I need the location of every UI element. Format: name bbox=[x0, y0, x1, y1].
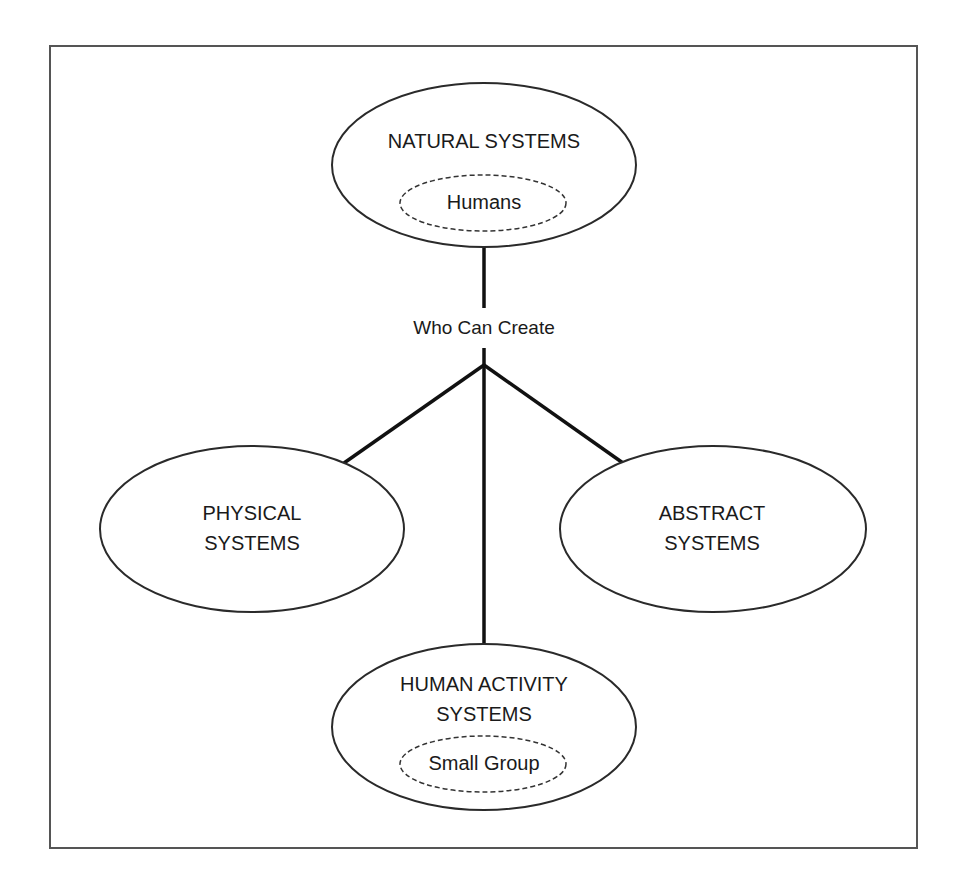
human-activity-systems-ellipse bbox=[332, 644, 636, 810]
humans-label: Humans bbox=[447, 191, 521, 213]
node-human-activity-systems: HUMAN ACTIVITY SYSTEMS Small Group bbox=[332, 644, 636, 810]
physical-systems-label-line2: SYSTEMS bbox=[204, 532, 300, 554]
relation-label: Who Can Create bbox=[413, 317, 555, 338]
abstract-systems-label-line2: SYSTEMS bbox=[664, 532, 760, 554]
abstract-systems-label-line1: ABSTRACT bbox=[659, 502, 766, 524]
abstract-systems-ellipse bbox=[560, 446, 866, 612]
human-activity-label-line1: HUMAN ACTIVITY bbox=[400, 673, 568, 695]
node-natural-systems: NATURAL SYSTEMS Humans bbox=[332, 83, 636, 247]
physical-systems-ellipse bbox=[100, 446, 404, 612]
physical-systems-label-line1: PHYSICAL bbox=[203, 502, 302, 524]
small-group-label: Small Group bbox=[428, 752, 539, 774]
human-activity-label-line2: SYSTEMS bbox=[436, 703, 532, 725]
node-abstract-systems: ABSTRACT SYSTEMS bbox=[560, 446, 866, 612]
systems-diagram: Who Can Create NATURAL SYSTEMS Humans PH… bbox=[0, 0, 961, 885]
edges bbox=[344, 247, 623, 644]
natural-systems-label: NATURAL SYSTEMS bbox=[388, 130, 580, 152]
node-physical-systems: PHYSICAL SYSTEMS bbox=[100, 446, 404, 612]
natural-systems-ellipse bbox=[332, 83, 636, 247]
edge-to-physical bbox=[344, 365, 484, 463]
edge-to-abstract bbox=[484, 365, 623, 463]
